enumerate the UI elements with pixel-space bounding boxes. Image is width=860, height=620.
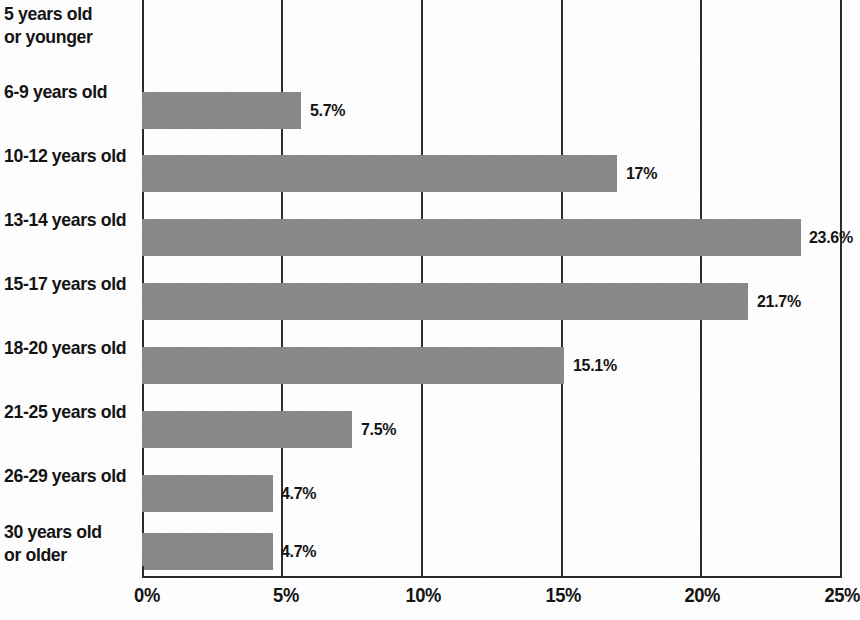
- bar-6[interactable]: [142, 411, 352, 448]
- value-label-6: 7.5%: [361, 420, 396, 440]
- value-label-1: 5.7%: [310, 101, 345, 121]
- category-label: 5 years old or younger: [4, 2, 129, 48]
- bar-4[interactable]: [142, 283, 748, 320]
- value-label-3: 23.6%: [809, 228, 853, 248]
- chart-row: 6-9 years old 5.7%: [0, 66, 847, 130]
- value-label-2: 17%: [626, 164, 657, 184]
- category-label: 30 years old or older: [4, 520, 129, 566]
- chart-row: 15-17 years old 21.7%: [0, 258, 847, 322]
- category-label: 10-12 years old: [4, 144, 129, 167]
- category-label: 21-25 years old: [4, 400, 129, 423]
- x-tick-label-25: 25%: [825, 584, 860, 607]
- x-tick-label-10: 10%: [406, 584, 441, 607]
- x-tick-label-15: 15%: [546, 584, 581, 607]
- value-label-4: 21.7%: [757, 292, 801, 312]
- x-tick-label-20: 20%: [685, 584, 720, 607]
- value-label-8: 4.7%: [281, 542, 316, 562]
- chart-row: 21-25 years old 7.5%: [0, 386, 847, 450]
- bar-8[interactable]: [142, 533, 273, 570]
- tick-mark-10: [421, 566, 423, 578]
- tick-mark-15: [561, 566, 563, 578]
- bar-7[interactable]: [142, 475, 273, 512]
- bar-5[interactable]: [142, 347, 564, 384]
- tick-mark-25: [840, 566, 842, 578]
- bar-3[interactable]: [142, 219, 801, 256]
- chart-row: 5 years old or younger: [0, 2, 847, 66]
- category-label: 6-9 years old: [4, 80, 129, 103]
- chart-row: 18-20 years old 15.1%: [0, 322, 847, 386]
- tick-mark-0: [142, 566, 144, 578]
- value-label-5: 15.1%: [573, 356, 617, 376]
- category-label: 26-29 years old: [4, 464, 129, 487]
- chart-row: 10-12 years old 17%: [0, 130, 847, 194]
- bar-1[interactable]: [142, 92, 301, 129]
- x-axis-line: [142, 576, 842, 578]
- x-tick-label-5: 5%: [273, 584, 299, 607]
- chart-row: 26-29 years old 4.7%: [0, 450, 847, 514]
- category-label: 18-20 years old: [4, 336, 129, 359]
- bar-2[interactable]: [142, 155, 617, 192]
- category-label: 15-17 years old: [4, 272, 129, 295]
- chart-row: 13-14 years old 23.6%: [0, 194, 847, 258]
- chart-row: 30 years old or older 4.7%: [0, 514, 847, 578]
- tick-mark-20: [700, 566, 702, 578]
- category-label: 13-14 years old: [4, 208, 129, 231]
- value-label-7: 4.7%: [281, 484, 316, 504]
- x-tick-label-0: 0%: [134, 584, 160, 607]
- tick-mark-5: [281, 566, 283, 578]
